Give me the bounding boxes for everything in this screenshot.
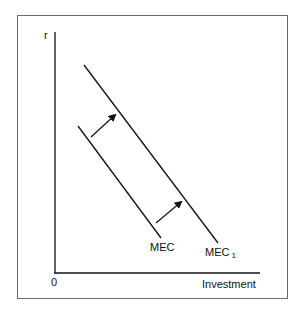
- mec-curve: [78, 126, 161, 238]
- shift-arrow-lower: [156, 202, 181, 223]
- mec-label: MEC: [150, 242, 174, 253]
- mec1-label: MEC1: [205, 247, 236, 260]
- shift-arrow-upper: [91, 115, 115, 137]
- mec1-curve: [84, 65, 218, 243]
- mec-shift-diagram: [0, 0, 303, 316]
- origin-label: 0: [51, 277, 57, 288]
- mec1-subscript: 1: [231, 251, 235, 260]
- x-axis-label: Investment: [202, 279, 256, 290]
- mec1-label-text: MEC: [205, 246, 229, 258]
- y-axis-label: r: [44, 30, 48, 41]
